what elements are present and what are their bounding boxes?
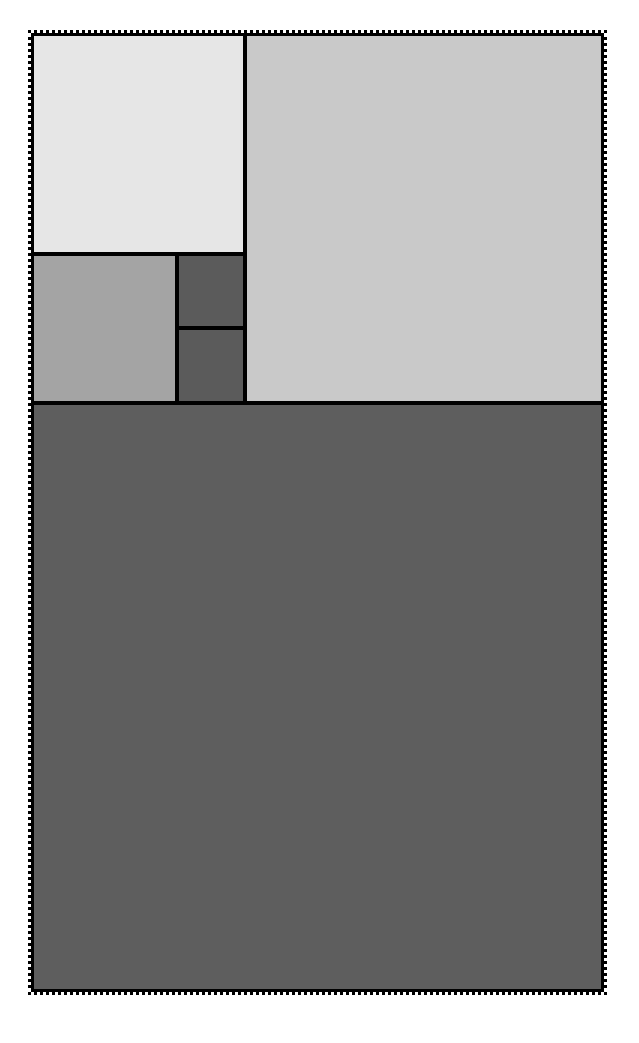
top-left-square <box>34 36 243 252</box>
tiling-canvas <box>31 33 604 992</box>
bottom-square <box>34 405 601 989</box>
small-lower-square <box>179 330 243 401</box>
small-upper-square <box>179 256 243 326</box>
top-right-square <box>247 36 601 401</box>
mid-left-square <box>34 256 175 401</box>
